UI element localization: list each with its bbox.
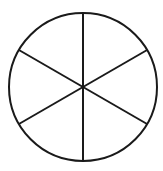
sector-circle-diagram: [0, 0, 163, 171]
